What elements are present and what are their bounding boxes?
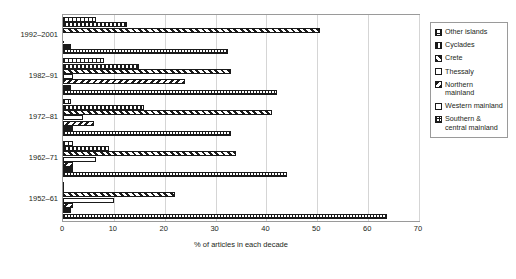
bar [63,157,96,162]
bar-row [63,74,419,79]
bar [63,172,287,177]
y-axis-label: 1982–91 [2,72,58,80]
bar [63,58,104,63]
bar-row [63,198,419,203]
bar [63,85,71,90]
y-axis-label: 1952–61 [2,195,58,203]
bar-row [63,115,419,120]
bar [63,17,96,22]
bar-row [63,151,419,156]
bar [63,198,114,203]
bar-row [63,126,419,131]
bar [63,151,236,156]
bar-row [63,157,419,162]
y-axis-labels: 1992–20011982–911972–811962–711952–61 [0,14,58,222]
bar-row [63,208,419,213]
legend-item[interactable]: Cyclades [435,41,503,49]
legend-label: Southern & central mainland [445,115,503,131]
bar [63,64,139,69]
bar-row [63,141,419,146]
bar [63,49,228,54]
bar [63,162,73,167]
legend-item[interactable]: Thessaly [435,68,503,76]
bar-row [63,28,419,33]
bar-row [63,203,419,208]
bar [63,187,64,192]
bar-row [63,182,419,187]
bar-row [63,38,419,43]
legend-swatch-icon [435,42,442,49]
bar [63,192,175,197]
x-axis-tick-label: 0 [60,224,64,233]
bar-group [63,180,419,221]
bar [63,44,71,49]
x-axis-tick-label: 70 [414,224,422,233]
bar-row [63,44,419,49]
legend-label: Northern mainland [445,81,503,97]
bar [63,141,73,146]
x-axis-tick-label: 10 [109,224,117,233]
legend-item[interactable]: Other islands [435,28,503,36]
bar-group [63,139,419,180]
bar [63,110,272,115]
plot-area [62,14,420,222]
legend-label: Crete [445,54,463,62]
x-axis-tick-label: 20 [160,224,168,233]
bar [63,121,94,126]
bar-row [63,172,419,177]
gridline-70 [419,15,420,221]
bar-row [63,167,419,172]
chart-legend: Other islandsCycladesCreteThessalyNorthe… [430,22,508,138]
y-axis-label: 1972–81 [2,113,58,121]
bar-group [63,15,419,56]
bar-row [63,69,419,74]
legend-item[interactable]: Northern mainland [435,81,503,97]
y-axis-label: 1992–2001 [2,31,58,39]
bar-row [63,49,419,54]
x-axis-tick-label: 50 [312,224,320,233]
bar-row [63,110,419,115]
legend-swatch-icon [435,103,442,110]
legend-swatch-icon [435,29,442,36]
bar [63,167,73,172]
bar [63,214,387,219]
legend-item[interactable]: Crete [435,54,503,62]
bar-row [63,22,419,27]
bar-row [63,192,419,197]
bar [63,115,83,120]
bar [63,69,231,74]
bar-row [63,58,419,63]
x-axis-tick-label: 60 [363,224,371,233]
bar-row [63,64,419,69]
bar [63,90,277,95]
legend-label: Cyclades [445,41,475,49]
legend-label: Other islands [445,28,487,36]
bar [63,105,144,110]
bar-row [63,17,419,22]
x-axis-tick-label: 30 [210,224,218,233]
bar-chart-figure: 1992–20011982–911972–811962–711952–61 01… [0,0,516,279]
bar [63,203,73,208]
legend-item[interactable]: Western mainland [435,102,503,110]
bar [63,208,71,213]
legend-item[interactable]: Southern & central mainland [435,115,503,131]
legend-label: Western mainland [445,102,503,110]
x-axis-tick-label: 40 [261,224,269,233]
bar [63,33,64,38]
legend-swatch-icon [435,81,442,88]
bar-row [63,121,419,126]
bar [63,28,320,33]
bar-row [63,99,419,104]
bar-row [63,33,419,38]
bar-group [63,97,419,138]
bar-row [63,146,419,151]
legend-swatch-icon [435,116,442,123]
bar-row [63,90,419,95]
legend-swatch-icon [435,55,442,62]
legend-label: Thessaly [445,68,474,76]
legend-swatch-icon [435,68,442,75]
bar [63,126,73,131]
bar [63,38,64,43]
bar [63,99,71,104]
bar-row [63,105,419,110]
